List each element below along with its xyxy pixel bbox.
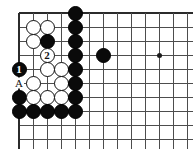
black-stone	[68, 48, 83, 63]
white-stone	[54, 76, 69, 91]
black-stone	[26, 104, 41, 119]
move-number: 2	[41, 49, 54, 62]
black-stone	[12, 104, 27, 119]
white-stone	[40, 20, 55, 35]
white-stone	[26, 34, 41, 49]
black-stone	[12, 90, 27, 105]
white-stone	[40, 62, 55, 77]
black-stone-move-1: 1	[12, 62, 27, 77]
black-stone	[96, 48, 111, 63]
black-stone	[40, 34, 55, 49]
black-stone	[68, 104, 83, 119]
move-number: 1	[13, 63, 26, 76]
white-stone-move-2: 2	[40, 48, 55, 63]
point-label-a: A	[14, 78, 24, 89]
white-stone	[26, 20, 41, 35]
black-stone	[40, 104, 55, 119]
white-stone	[26, 90, 41, 105]
black-stone	[68, 6, 83, 21]
white-stone	[54, 90, 69, 105]
black-stone	[54, 104, 69, 119]
board-stones: 21A	[0, 0, 193, 149]
black-stone	[68, 20, 83, 35]
white-stone	[40, 90, 55, 105]
white-stone	[26, 76, 41, 91]
black-stone	[68, 34, 83, 49]
go-board-diagram: 21A	[0, 0, 193, 149]
black-stone	[68, 90, 83, 105]
white-stone	[54, 62, 69, 77]
black-stone	[68, 62, 83, 77]
black-stone	[68, 76, 83, 91]
